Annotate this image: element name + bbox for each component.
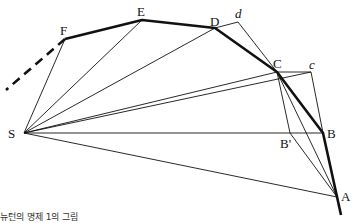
- line-S-D: [24, 28, 215, 133]
- line-S-E: [24, 20, 142, 133]
- kepler-area-diagram: S F E D d C c B B' A: [0, 0, 352, 223]
- label-S: S: [8, 126, 15, 141]
- label-F: F: [60, 23, 67, 38]
- label-C: C: [273, 56, 282, 71]
- label-d: d: [235, 6, 242, 21]
- orbit-path: [65, 20, 341, 215]
- line-S-c: [24, 72, 311, 133]
- label-c: c: [309, 57, 315, 72]
- label-D: D: [210, 14, 219, 29]
- label-B-prime: B': [280, 136, 291, 151]
- orbit-path-dashed: [6, 39, 65, 90]
- label-E: E: [137, 4, 145, 19]
- line-S-C: [24, 72, 277, 133]
- label-B: B: [327, 126, 336, 141]
- line-S-F: [24, 39, 65, 133]
- label-A: A: [341, 189, 351, 204]
- figure-caption: 뉴턴의 명제 1의 그림: [0, 210, 78, 223]
